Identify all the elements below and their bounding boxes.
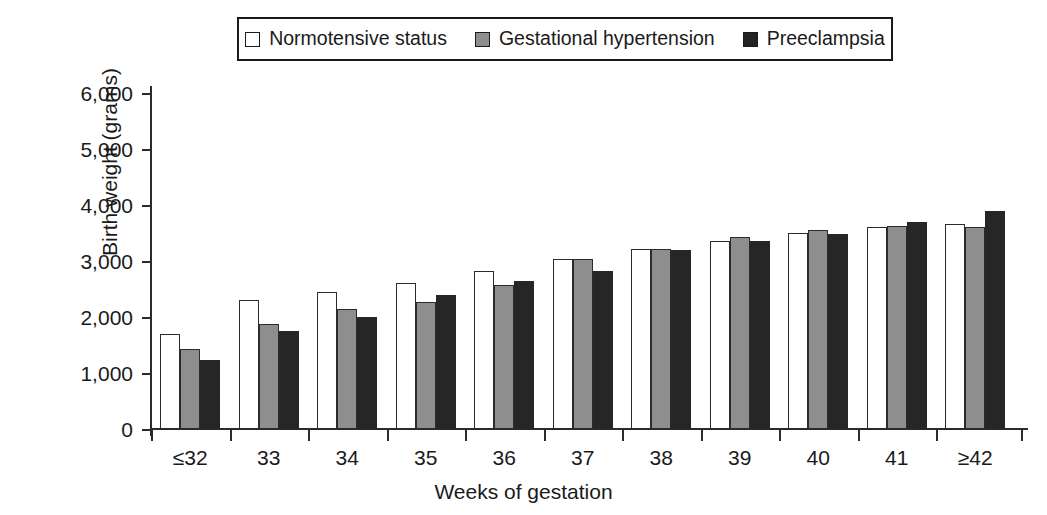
x-tick-label: 39 <box>701 446 780 470</box>
y-tick-mark: 2,000 <box>142 317 152 319</box>
bar <box>514 281 534 429</box>
bar <box>160 334 180 429</box>
bar <box>494 285 514 429</box>
bar <box>945 224 965 429</box>
x-tick-mark <box>622 430 624 441</box>
x-tick-mark <box>465 430 467 441</box>
bar <box>357 317 377 429</box>
x-tick-mark <box>936 430 938 441</box>
y-axis-title: Birth weight (grams) <box>98 42 122 282</box>
bar <box>750 241 770 429</box>
bar-group <box>553 93 625 429</box>
bar-group <box>631 93 703 429</box>
legend-item-gestational-hypertension: Gestational hypertension <box>475 29 715 49</box>
bar <box>985 211 1005 429</box>
bar <box>416 302 436 429</box>
bar <box>474 271 494 429</box>
bar-group <box>160 93 232 429</box>
y-tick-label: 5,000 <box>80 138 133 162</box>
y-tick-mark: 3,000 <box>142 261 152 263</box>
white-square-icon <box>245 32 260 47</box>
bar-group <box>945 93 1017 429</box>
bar <box>436 295 456 429</box>
y-tick-mark: 1,000 <box>142 373 152 375</box>
bar <box>396 283 416 429</box>
x-tick-mark <box>858 430 860 441</box>
bar <box>317 292 337 429</box>
x-tick-mark <box>387 430 389 441</box>
bar <box>553 259 573 429</box>
legend-item-preeclampsia: Preeclampsia <box>743 29 885 49</box>
black-square-icon <box>743 32 758 47</box>
bar <box>887 226 907 429</box>
x-tick-label: 40 <box>779 446 858 470</box>
y-tick-label: 1,000 <box>80 362 133 386</box>
bar-group <box>710 93 782 429</box>
bar <box>651 249 671 429</box>
y-tick-mark: 6,000 <box>142 93 152 95</box>
bar <box>907 222 927 429</box>
x-tick-mark <box>701 430 703 441</box>
bar-group <box>317 93 389 429</box>
x-tick-label: 34 <box>308 446 387 470</box>
x-tick-label: 37 <box>544 446 623 470</box>
bar-group <box>867 93 939 429</box>
x-tick-mark <box>308 430 310 441</box>
bar <box>671 250 691 429</box>
y-tick-label: 3,000 <box>80 250 133 274</box>
bar <box>593 271 613 429</box>
bar <box>279 331 299 429</box>
x-tick-label: ≤32 <box>151 446 230 470</box>
bar <box>631 249 651 429</box>
bar-group <box>474 93 546 429</box>
bar <box>788 233 808 429</box>
chart-legend: Normotensive status Gestational hyperten… <box>237 17 893 61</box>
legend-label: Gestational hypertension <box>499 29 715 49</box>
bar <box>239 300 259 429</box>
y-tick-label: 4,000 <box>80 194 133 218</box>
bar <box>965 227 985 429</box>
y-tick-mark: 4,000 <box>142 205 152 207</box>
bar <box>710 241 730 429</box>
y-tick-label: 6,000 <box>80 82 133 106</box>
bar <box>180 349 200 429</box>
x-tick-label: 35 <box>387 446 466 470</box>
bar <box>828 234 848 429</box>
x-axis-title: Weeks of gestation <box>0 480 1047 504</box>
x-tick-mark <box>1021 430 1023 441</box>
bar <box>259 324 279 429</box>
bar-group <box>239 93 311 429</box>
x-tick-mark <box>779 430 781 441</box>
plot-area: 01,0002,0003,0004,0005,0006,000 <box>152 93 1027 429</box>
bar <box>808 230 828 429</box>
x-tick-label: 41 <box>858 446 937 470</box>
gray-square-icon <box>475 32 490 47</box>
legend-label: Preeclampsia <box>767 29 885 49</box>
legend-label: Normotensive status <box>269 29 447 49</box>
y-tick-label: 2,000 <box>80 306 133 330</box>
bar <box>573 259 593 429</box>
legend-item-normotensive: Normotensive status <box>245 29 447 49</box>
bar <box>867 227 887 429</box>
y-tick-mark: 5,000 <box>142 149 152 151</box>
bar <box>730 237 750 429</box>
x-tick-label: 36 <box>465 446 544 470</box>
x-tick-label: 33 <box>230 446 309 470</box>
x-tick-label: 38 <box>622 446 701 470</box>
x-tick-mark <box>544 430 546 441</box>
bar <box>200 360 220 429</box>
x-tick-mark <box>230 430 232 441</box>
bar-group <box>396 93 468 429</box>
x-tick-mark <box>151 430 153 441</box>
x-tick-label: ≥42 <box>936 446 1015 470</box>
bar <box>337 309 357 429</box>
bar-group <box>788 93 860 429</box>
y-tick-label: 0 <box>121 418 133 442</box>
